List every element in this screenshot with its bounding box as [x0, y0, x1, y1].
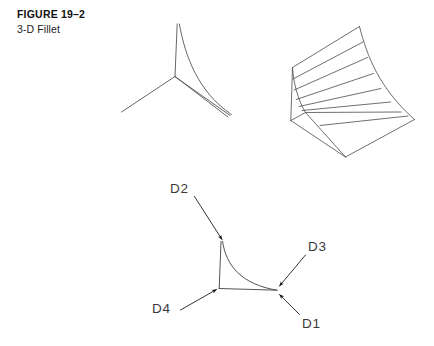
mesh-right-boundary-curve: [360, 27, 415, 120]
leader-line-d3: [280, 255, 306, 286]
mesh-isoline-7: [320, 116, 408, 126]
mesh-bottom-panel-bottom-edge: [346, 120, 415, 158]
mesh-isoline-3: [296, 74, 373, 100]
label-d3: D3: [308, 239, 327, 254]
annotated-vertical-edge: [219, 242, 221, 289]
corner-left-leg-edge: [122, 77, 176, 113]
corner-fillet-curve: [179, 24, 231, 115]
label-d4: D4: [152, 301, 171, 316]
mesh-isoline-6: [306, 112, 402, 113]
mesh-left-panel-edge: [291, 68, 293, 121]
leader-line-d2: [195, 197, 223, 240]
label-d2: D2: [170, 181, 189, 196]
dimension-leaders: [181, 197, 306, 315]
corner-wireframe-view: [122, 24, 232, 117]
leader-line-d4: [181, 290, 217, 311]
annotated-corner-view: [219, 242, 277, 291]
label-d1: D1: [302, 316, 321, 331]
mesh-left-panel-base: [291, 113, 306, 121]
annotated-fillet-curve: [223, 242, 277, 291]
corner-vertical-edge: [175, 24, 177, 77]
corner-fillet-tangent-edge: [175, 77, 230, 116]
dimension-labels: D2 D3 D1 D4: [152, 181, 327, 331]
figure-root: FIGURE 19–2 3-D Fillet: [0, 0, 434, 346]
mesh-isoline-2: [294, 58, 367, 91]
leader-line-d1: [280, 295, 300, 315]
technical-drawing-canvas: D2 D3 D1 D4: [0, 0, 434, 346]
fillet-surface-mesh-view: [291, 27, 415, 158]
